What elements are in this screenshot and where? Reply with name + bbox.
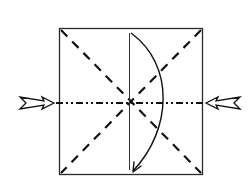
push-arrow-left-icon: [20, 97, 54, 109]
origami-diagram: Square paper with diagonal valley-fold c…: [0, 0, 251, 183]
push-arrow-right-icon: [206, 97, 240, 109]
